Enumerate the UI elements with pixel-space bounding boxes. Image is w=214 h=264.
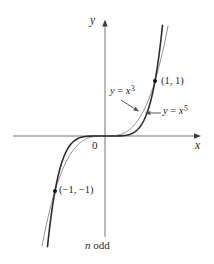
point-label-1-1: (1, 1) xyxy=(161,75,184,87)
marked-point-1 xyxy=(53,189,57,193)
curve-label-x3-eq: = xyxy=(115,85,126,96)
y-axis-arrowhead-icon xyxy=(102,20,107,27)
curve-label-x5: y = x5 xyxy=(163,105,188,117)
y-axis-label: y xyxy=(90,14,95,27)
x-axis-arrowhead-icon xyxy=(194,133,201,138)
point-label-neg1-neg1: (−1, −1) xyxy=(59,184,94,196)
caption-text: odd xyxy=(91,239,110,251)
curve-label-x5-base: x xyxy=(179,105,184,116)
marked-point-0 xyxy=(153,79,157,83)
x-axis-label: x xyxy=(195,139,200,152)
plot-canvas xyxy=(0,0,214,264)
odd-power-functions-figure: y x 0 y = x3 y = x5 (1, 1) (−1, −1) n od… xyxy=(0,0,214,264)
origin-label: 0 xyxy=(92,139,98,151)
curve-label-x5-eq: = xyxy=(168,105,179,116)
callout-x3-arrowhead-icon xyxy=(133,107,139,112)
curve-label-x3-exponent: 3 xyxy=(131,84,135,93)
curve-label-x3-base: x xyxy=(126,85,131,96)
callout-x3-line xyxy=(121,100,134,109)
curve-label-x5-exponent: 5 xyxy=(184,104,188,113)
curve-label-x3: y = x3 xyxy=(110,85,135,97)
figure-caption: n odd xyxy=(85,239,110,251)
